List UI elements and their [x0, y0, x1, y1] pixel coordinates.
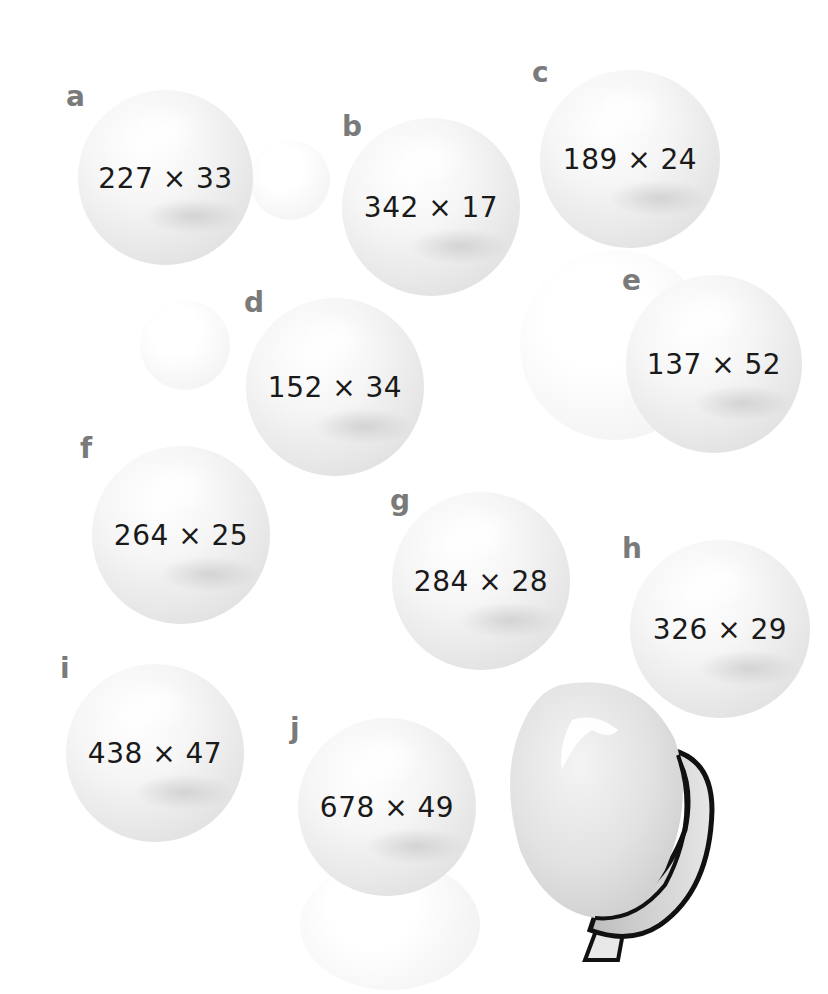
- bubble-i: 438 × 47: [66, 664, 244, 842]
- problem-label-c: c: [532, 56, 549, 89]
- problem-label-a: a: [66, 80, 85, 113]
- bubble-b: 342 × 17: [342, 118, 520, 296]
- problem-label-j: j: [290, 712, 300, 745]
- problem-expression: 326 × 29: [630, 613, 810, 646]
- bubble-j: 678 × 49: [298, 718, 476, 896]
- problem-expression: 227 × 33: [78, 161, 253, 194]
- ghost-bubble: [250, 140, 330, 220]
- problem-label-h: h: [622, 532, 642, 565]
- problem-expression: 189 × 24: [540, 143, 720, 176]
- problem-expression: 342 × 17: [342, 191, 520, 224]
- problem-label-d: d: [244, 286, 264, 319]
- bubble-a: 227 × 33: [78, 90, 253, 265]
- problem-label-f: f: [80, 432, 92, 465]
- problem-expression: 438 × 47: [66, 737, 244, 770]
- bubble-e: 137 × 52: [626, 275, 802, 453]
- problem-label-b: b: [342, 110, 362, 143]
- problem-label-i: i: [60, 652, 70, 685]
- problem-expression: 678 × 49: [298, 791, 476, 824]
- problem-label-e: e: [622, 264, 641, 297]
- bubble-d: 152 × 34: [246, 298, 424, 476]
- ghost-bubble: [140, 300, 230, 390]
- bubble-g: 284 × 28: [392, 492, 570, 670]
- problem-label-g: g: [390, 484, 410, 517]
- magnifying-glass-icon: [500, 660, 828, 990]
- bubble-f: 264 × 25: [92, 446, 270, 624]
- problem-expression: 152 × 34: [246, 371, 424, 404]
- problem-expression: 264 × 25: [92, 519, 270, 552]
- problem-expression: 137 × 52: [626, 348, 802, 381]
- bubble-c: 189 × 24: [540, 70, 720, 248]
- problem-expression: 284 × 28: [392, 565, 570, 598]
